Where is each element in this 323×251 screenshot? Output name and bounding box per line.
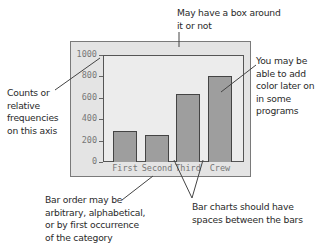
annotation-order: Bar order may be arbitrary, alphabetical… <box>45 194 145 244</box>
annotation-spacing: Bar charts should have spaces between th… <box>192 201 303 226</box>
annotation-color-line: You may be <box>256 55 314 68</box>
annotation-order-line: arbitrary, alphabetical, <box>45 207 145 220</box>
annotation-box: May have a box around it or not <box>177 7 281 32</box>
annotation-axis-line: on this axis <box>7 125 58 138</box>
annotation-box-line: it or not <box>177 20 281 33</box>
annotation-order-line: or by first occurrence <box>45 219 145 232</box>
annotation-color: You may be able to add color later on in… <box>256 55 314 118</box>
annotation-axis-line: frequencies <box>7 112 58 125</box>
annotation-color-line: color later on <box>256 80 314 93</box>
annotation-color-line: programs <box>256 105 314 118</box>
annotation-order-line: of the category <box>45 232 145 245</box>
annotation-box-line: May have a box around <box>177 7 281 20</box>
annotation-axis: Counts or relative frequencies on this a… <box>7 87 58 137</box>
annotation-order-line: Bar order may be <box>45 194 145 207</box>
annotation-spacing-line: spaces between the bars <box>192 214 303 227</box>
annotation-spacing-line: Bar charts should have <box>192 201 303 214</box>
annotation-color-line: in some <box>256 93 314 106</box>
annotation-axis-line: Counts or <box>7 87 58 100</box>
annotation-axis-line: relative <box>7 100 58 113</box>
annotation-color-line: able to add <box>256 68 314 81</box>
